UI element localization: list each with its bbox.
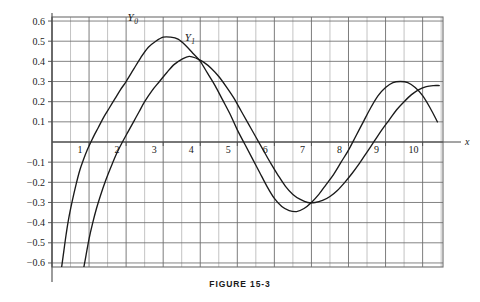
figure-caption: FIGURE 15-3 — [0, 279, 480, 289]
x-tick-label: 3 — [152, 144, 157, 155]
figure-container: 12345678910 −0.6−0.5−0.4−0.3−0.2−0.10.10… — [0, 0, 480, 302]
y-tick-label: −0.6 — [27, 257, 45, 268]
bessel-function-plot: 12345678910 −0.6−0.5−0.4−0.3−0.2−0.10.10… — [0, 0, 480, 302]
x-tick-label: 10 — [409, 144, 419, 155]
x-axis-name-label: x — [464, 136, 470, 147]
y-tick-label: 0.1 — [33, 116, 46, 127]
x-axis-label: x — [464, 136, 470, 147]
y-tick-label: 0.6 — [33, 16, 46, 27]
x-tick-label: 1 — [78, 144, 83, 155]
y-tick-label: 0.3 — [33, 76, 46, 87]
x-tick-label: 5 — [226, 144, 231, 155]
y-tick-label: 0.4 — [33, 56, 46, 67]
y-tick-label: −0.3 — [27, 197, 45, 208]
y-tick-label: −0.2 — [27, 177, 45, 188]
x-tick-label: 8 — [337, 144, 342, 155]
y-axis-tick-labels: −0.6−0.5−0.4−0.3−0.2−0.10.10.20.30.40.50… — [27, 16, 45, 269]
x-tick-label: 4 — [189, 144, 194, 155]
y-tick-label: 0.2 — [33, 96, 46, 107]
x-tick-label: 7 — [300, 144, 305, 155]
y-tick-label: −0.1 — [27, 157, 45, 168]
y-tick-label: −0.4 — [27, 217, 45, 228]
x-tick-label: 9 — [374, 144, 379, 155]
y-tick-label: 0.5 — [33, 36, 46, 47]
y-tick-label: −0.5 — [27, 237, 45, 248]
